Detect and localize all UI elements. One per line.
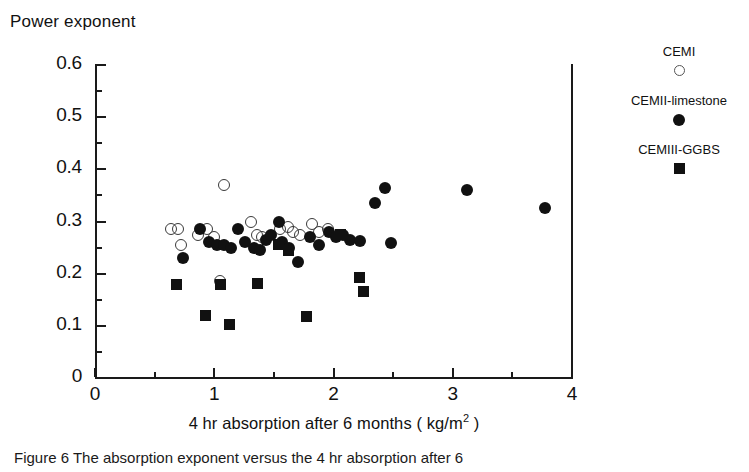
x-tick-label: 1 (194, 383, 234, 405)
legend-entry-cemiii-ggbs[interactable]: CEMIII-GGBS (612, 142, 746, 177)
x-tick-label: 4 (552, 383, 592, 405)
data-point-cemiii-ggbs (335, 229, 346, 240)
data-point-cemii-limestone (539, 202, 551, 214)
legend-marker-wrap (612, 111, 746, 128)
data-point-cemi (175, 239, 187, 251)
y-tick-label: 0.4 (26, 156, 82, 178)
figure-caption: Figure 6 The absorption exponent versus … (0, 452, 749, 472)
x-tick-minor (154, 372, 156, 377)
data-point-cemii-limestone (379, 182, 391, 194)
data-point-cemii-limestone (369, 197, 381, 209)
data-point-cemii-limestone (232, 223, 244, 235)
scatter-chart-figure: Power exponent 00.10.20.30.40.50.601234 … (0, 0, 749, 472)
x-tick-major (452, 368, 454, 377)
y-tick-major (97, 377, 106, 379)
y-tick-minor (97, 299, 102, 301)
legend-marker-open-circle-icon (674, 65, 685, 76)
data-point-cemi (172, 223, 184, 235)
data-point-cemii-limestone (313, 239, 325, 251)
x-tick-major (333, 368, 335, 377)
x-axis-title-tail: ) (469, 414, 479, 432)
x-tick-label: 3 (433, 383, 473, 405)
legend-entry-cemi[interactable]: CEMI (612, 44, 746, 79)
legend-label: CEMII-limestone (612, 93, 746, 109)
data-point-cemii-limestone (354, 235, 366, 247)
chart-legend: CEMICEMII-limestoneCEMIII-GGBS (612, 44, 749, 191)
legend-marker-wrap (612, 62, 746, 79)
y-axis-title: Power exponent (10, 12, 136, 32)
data-point-cemiii-ggbs (171, 279, 182, 290)
x-tick-minor (273, 372, 275, 377)
data-point-cemiii-ggbs (301, 311, 312, 322)
y-tick-label: 0.2 (26, 261, 82, 283)
data-point-cemii-limestone (385, 237, 397, 249)
y-tick-minor (97, 351, 102, 353)
x-tick-minor (511, 372, 513, 377)
data-point-cemii-limestone (461, 184, 473, 196)
data-point-cemii-limestone (273, 216, 285, 228)
data-point-cemiii-ggbs (354, 272, 365, 283)
figure-caption-text: Figure 6 The absorption exponent versus … (14, 452, 463, 466)
x-tick-major (213, 368, 215, 377)
y-tick-minor (97, 194, 102, 196)
data-point-cemiii-ggbs (215, 279, 226, 290)
data-point-cemii-limestone (225, 242, 237, 254)
y-tick-major (97, 325, 106, 327)
data-point-cemii-limestone (254, 244, 266, 256)
legend-label: CEMI (612, 44, 746, 60)
y-tick-major (97, 64, 106, 66)
x-axis-line (95, 377, 573, 379)
y-tick-minor (97, 90, 102, 92)
y-tick-minor (97, 142, 102, 144)
data-point-cemi (245, 216, 257, 228)
data-point-cemiii-ggbs (224, 319, 235, 330)
legend-label: CEMIII-GGBS (612, 142, 746, 158)
y-tick-minor (97, 247, 102, 249)
x-tick-minor (392, 372, 394, 377)
y-tick-label: 0.6 (26, 52, 82, 74)
x-axis-title-main: 4 hr absorption after 6 months ( kg/m (189, 414, 463, 432)
legend-marker-filled-circle-icon (673, 114, 685, 126)
legend-marker-filled-square-icon (674, 163, 685, 174)
y-tick-major (97, 168, 106, 170)
legend-entry-cemii-limestone[interactable]: CEMII-limestone (612, 93, 746, 128)
data-point-cemi (218, 179, 230, 191)
data-point-cemii-limestone (177, 252, 189, 264)
y-tick-label: 0.1 (26, 313, 82, 335)
x-tick-label: 0 (75, 383, 115, 405)
data-point-cemii-limestone (292, 256, 304, 268)
data-point-cemiii-ggbs (252, 278, 263, 289)
x-tick-major (571, 368, 573, 377)
y-tick-major (97, 221, 106, 223)
data-point-cemiii-ggbs (358, 286, 369, 297)
x-tick-label: 2 (314, 383, 354, 405)
y-tick-major (97, 273, 106, 275)
y-tick-label: 0 (26, 365, 82, 387)
y-tick-label: 0.3 (26, 209, 82, 231)
y-tick-label: 0.5 (26, 104, 82, 126)
data-point-cemiii-ggbs (200, 310, 211, 321)
y-tick-major (97, 116, 106, 118)
x-tick-major (94, 368, 96, 377)
right-frame-line (571, 64, 573, 379)
legend-marker-wrap (612, 160, 746, 177)
x-axis-title: 4 hr absorption after 6 months ( kg/m2 ) (95, 412, 573, 433)
data-point-cemiii-ggbs (283, 245, 294, 256)
